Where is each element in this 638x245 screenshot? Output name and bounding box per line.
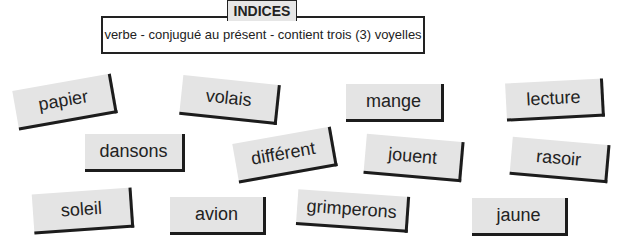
word-card-jaune[interactable]: jaune <box>472 198 568 236</box>
word-card-different[interactable]: différent <box>232 127 337 184</box>
word-card-rasoir[interactable]: rasoir <box>510 137 611 183</box>
word-card-papier[interactable]: papier <box>12 74 117 131</box>
word-card-grimperons[interactable]: grimperons <box>296 189 410 233</box>
word-card-volais[interactable]: volais <box>179 75 281 125</box>
word-card-jouent[interactable]: jouent <box>363 134 464 182</box>
word-card-avion[interactable]: avion <box>170 197 266 235</box>
word-card-soleil[interactable]: soleil <box>32 188 135 235</box>
word-card-lecture[interactable]: lecture <box>505 78 605 121</box>
clues-title: INDICES <box>227 0 297 21</box>
word-card-mange[interactable]: mange <box>346 84 444 122</box>
word-card-dansons[interactable]: dansons <box>85 134 185 172</box>
